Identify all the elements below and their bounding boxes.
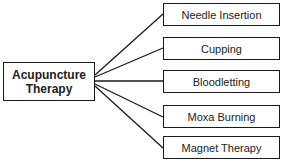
child-node-needle-insertion: Needle Insertion [163,3,280,26]
child-node-bloodletting: Bloodletting [163,70,280,93]
root-label-line1: Acupuncture [12,68,86,82]
connector-moxa-burning [95,84,163,117]
child-label: Magnet Therapy [182,142,262,154]
child-node-moxa-burning: Moxa Burning [163,105,280,128]
child-node-magnet-therapy: Magnet Therapy [163,136,280,159]
child-label: Cupping [201,43,242,55]
connector-needle-insertion [95,14,163,75]
root-label-line2: Therapy [12,82,86,96]
child-label: Needle Insertion [181,9,261,21]
child-label: Moxa Burning [188,111,256,123]
root-node-acupuncture-therapy: Acupuncture Therapy [3,62,95,101]
child-node-cupping: Cupping [163,37,280,60]
connector-cupping [95,48,163,77]
child-label: Bloodletting [193,76,251,88]
connector-magnet-therapy [95,86,163,148]
